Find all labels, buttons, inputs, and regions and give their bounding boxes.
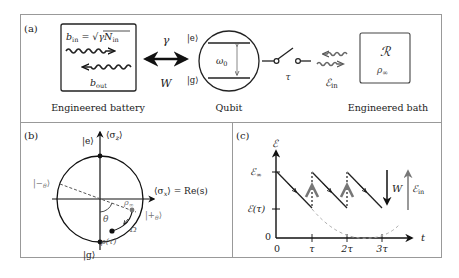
bath-caption: Engineered bath	[348, 102, 428, 113]
x-axis-label-t: t	[421, 232, 426, 243]
switch: τ	[262, 48, 311, 82]
discharge-arrow-1-icon	[288, 183, 296, 192]
panel-c: (c) ℰ t ℰ∞ ℰ(τ) 0 0 τ 2τ 3τ	[236, 130, 426, 254]
legend-work: W	[392, 183, 403, 194]
y-tick-label-tau: ℰ(τ)	[247, 203, 266, 214]
switch-lever	[278, 48, 293, 59]
plus-theta-label: |+θ⟩	[145, 210, 162, 221]
bath-symbol: ℛ	[380, 44, 392, 59]
trajectory-curve	[112, 212, 132, 231]
panel-b-label: (b)	[24, 130, 38, 141]
coupling: γ W	[146, 34, 186, 90]
theta-label: θ	[103, 214, 109, 224]
qubit-ground-label: |g⟩	[187, 75, 199, 86]
excited-point	[98, 154, 103, 159]
ground-state-label: |g⟩	[83, 250, 95, 261]
switch-tau: τ	[286, 72, 292, 82]
z-axis-label: ⟨σz⟩	[106, 130, 123, 142]
panel-b: (b) ⟨σz⟩ |e⟩ ⟨σx⟩ = Re(s) |g⟩ |−θ⟩ |+θ⟩ …	[24, 130, 208, 261]
engineered-battery: bin = √γNin bout Engineered battery	[51, 24, 145, 113]
wavy-arrow-in-icon	[66, 49, 114, 53]
discharge-arrow-3-icon	[358, 183, 366, 192]
discharge-arrow-2-icon	[323, 183, 331, 192]
b-out-label: bout	[90, 77, 107, 90]
wavy-arrow-left-icon	[323, 53, 347, 56]
x-tick-label-2tau: 2τ	[340, 243, 353, 254]
energy-in: ℰin	[317, 53, 347, 91]
y-axis-label: ℰ	[272, 138, 279, 149]
bath-state: ρ∞	[376, 65, 388, 77]
legend-energy-in: ℰin	[412, 183, 424, 196]
qubit-excited-label: |e⟩	[187, 33, 198, 44]
panel-a: (a) bin = √γNin bout Engineered battery …	[24, 23, 428, 113]
recharge-arrow-1-icon	[306, 185, 318, 197]
energy-in-label: ℰin	[325, 77, 338, 90]
rho-tau-label: ρ(τ)	[100, 237, 116, 246]
minus-theta-label: |−θ⟩	[33, 178, 50, 189]
rho-tau-point	[109, 228, 114, 233]
x-axis-label: ⟨σx⟩ = Re(s)	[154, 186, 208, 198]
engineered-bath: ℛ ρ∞ Engineered bath	[348, 33, 428, 113]
x-tick-label-tau: τ	[309, 243, 315, 254]
wavy-arrow-out-icon	[83, 65, 131, 69]
qubit-caption: Qubit	[216, 102, 243, 113]
excited-state-label: |e⟩	[82, 136, 94, 147]
x-tick-label-3tau: 3τ	[376, 243, 388, 254]
omega-label: Ω	[129, 225, 137, 234]
panel-a-label: (a)	[24, 23, 38, 34]
theta-arc	[100, 203, 112, 212]
b-in-formula: bin = √γNin	[66, 31, 119, 44]
switch-contact-right	[296, 59, 301, 64]
battery-caption: Engineered battery	[51, 102, 145, 113]
free-decay-dashed	[312, 209, 400, 238]
rho-inf-point	[130, 208, 135, 213]
x-tick-label-0: 0	[274, 243, 280, 254]
qubit-circle	[199, 31, 259, 91]
y-tick-label-inf: ℰ∞	[250, 166, 261, 179]
panel-c-label: (c)	[236, 130, 250, 141]
figure: (a) bin = √γNin bout Engineered battery …	[0, 0, 459, 278]
switch-contact-left	[274, 59, 279, 64]
coupling-gamma: γ	[163, 34, 170, 47]
qubit: |e⟩ |g⟩ ω0 Qubit	[187, 31, 259, 113]
wavy-arrow-right-icon	[317, 63, 343, 66]
y-tick-label-zero: 0	[265, 231, 271, 242]
qubit-frequency: ω0	[216, 56, 227, 68]
recharge-arrow-2-icon	[341, 185, 353, 197]
coupling-work: W	[160, 77, 173, 90]
